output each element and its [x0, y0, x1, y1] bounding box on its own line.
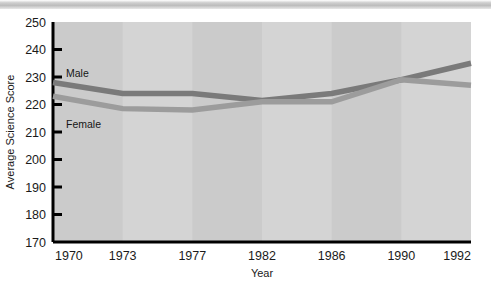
x-axis-title: Year — [251, 267, 274, 279]
x-tick-label: 1992 — [443, 249, 471, 263]
x-tick-label: 1970 — [55, 249, 83, 263]
science-score-line-chart: 250240230220210200190180170 Male Female … — [0, 9, 491, 291]
x-tick-label: 1973 — [109, 249, 137, 263]
y-tick-label: 250 — [25, 16, 46, 30]
x-tick-label: 1982 — [248, 249, 276, 263]
y-tick-label: 220 — [25, 98, 46, 112]
y-tick-label: 240 — [25, 43, 46, 57]
series-label-female: Female — [66, 118, 101, 130]
y-tick-label: 210 — [25, 126, 46, 140]
top-decorative-bar — [0, 0, 491, 9]
y-tick-label: 190 — [25, 181, 46, 195]
background-bands — [53, 22, 401, 242]
x-tick-label: 1990 — [387, 249, 415, 263]
background-band — [192, 22, 262, 242]
y-tick-label: 230 — [25, 71, 46, 85]
background-band — [53, 22, 123, 242]
series-label-male: Male — [66, 67, 89, 79]
background-band — [332, 22, 402, 242]
y-axis-ticks: 250240230220210200190180170 — [25, 16, 62, 250]
chart-figure: 250240230220210200190180170 Male Female … — [0, 9, 491, 291]
y-tick-label: 200 — [25, 153, 46, 167]
x-tick-label: 1977 — [178, 249, 206, 263]
x-axis-tick-labels: 1970197319771982198619901992 — [55, 249, 471, 263]
y-tick-label: 180 — [25, 208, 46, 222]
x-tick-label: 1986 — [318, 249, 346, 263]
y-axis-title: Average Science Score — [4, 75, 16, 190]
y-tick-label: 170 — [25, 236, 46, 250]
